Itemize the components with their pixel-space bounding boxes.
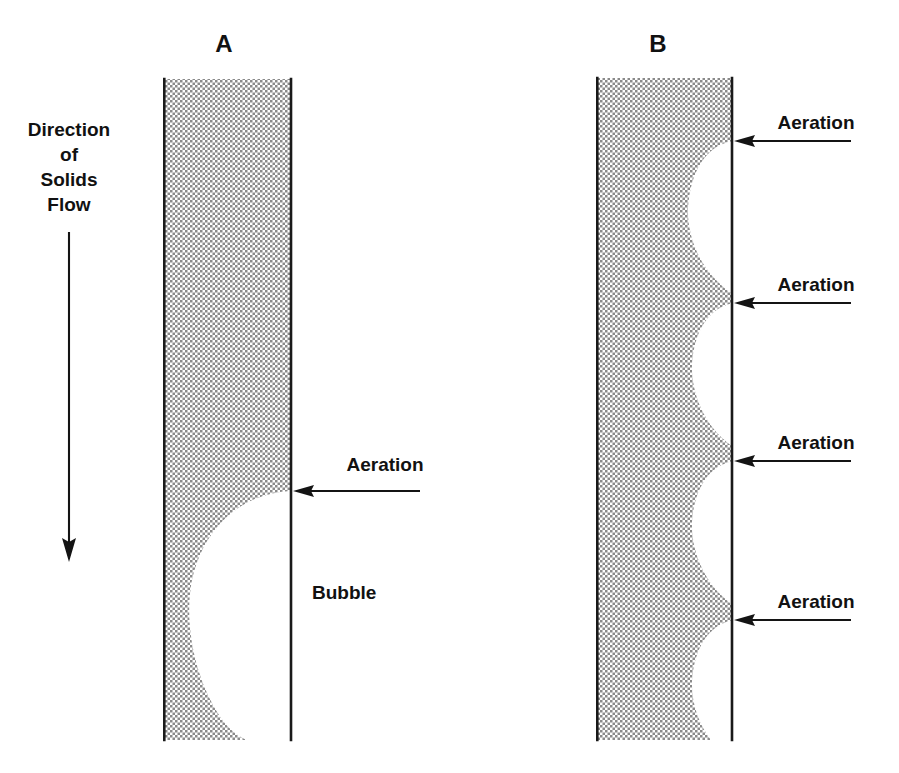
panel-a-bed <box>163 79 292 748</box>
flow-label-line-4: Flow <box>47 194 90 215</box>
aeration-bubble-diagram: A Aeration Bubble B <box>0 0 899 773</box>
panel-a-aeration-label-1: Aeration <box>346 454 423 475</box>
panel-b-aeration-port-4: Aeration <box>734 591 855 626</box>
panel-b-aeration-label-4: Aeration <box>777 591 854 612</box>
panel-b-aeration-port-3: Aeration <box>734 432 855 467</box>
arrow-left-icon <box>734 297 755 309</box>
flow-label-line-3: Solids <box>40 169 97 190</box>
panel-a-bubble-label: Bubble <box>312 582 376 603</box>
flow-direction-annotation: Direction of Solids Flow <box>28 119 110 562</box>
panel-b-aeration-port-1: Aeration <box>734 112 855 147</box>
arrow-left-icon <box>734 135 755 147</box>
panel-b-aeration-label-3: Aeration <box>777 432 854 453</box>
flow-label-line-1: Direction <box>28 119 110 140</box>
panel-b-aeration-port-2: Aeration <box>734 274 855 309</box>
diagram-canvas: A Aeration Bubble B <box>0 0 899 773</box>
panel-b-aeration-label-2: Aeration <box>777 274 854 295</box>
panel-b-aeration-label-1: Aeration <box>777 112 854 133</box>
panel-b-letter: B <box>649 30 666 57</box>
panel-b: B Aeration <box>596 30 855 760</box>
panel-a-letter: A <box>215 30 232 57</box>
arrow-left-icon <box>293 485 314 497</box>
flow-label-line-2: of <box>60 144 79 165</box>
panel-a: A Aeration Bubble <box>163 30 424 748</box>
arrow-left-icon <box>734 455 755 467</box>
arrow-left-icon <box>734 614 755 626</box>
panel-b-bed <box>596 78 733 760</box>
panel-a-aeration-port-1: Aeration <box>293 454 424 497</box>
